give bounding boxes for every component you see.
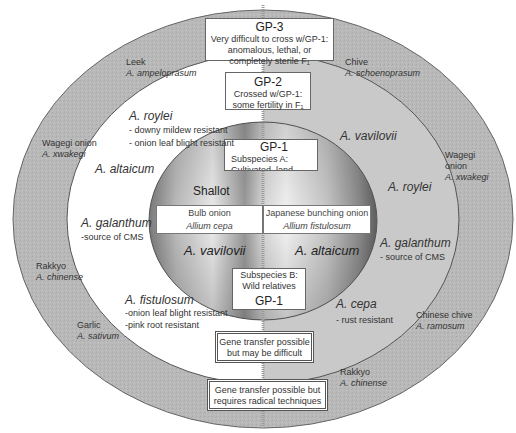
galanthum-right: A. galanthum - source of CMS	[380, 236, 451, 263]
chive-latin: A. schoenoprasum	[345, 68, 420, 79]
cepa-name: A. cepa	[336, 297, 393, 311]
wagegi-right-common-2: onion	[445, 161, 489, 172]
gp3-line-2: anomalous, lethal, or	[206, 45, 333, 56]
inner-vavilovii-label: A. vavilovii	[184, 243, 245, 258]
gp3-box: GP-3 Very difficult to cross w/GP-1: ano…	[205, 18, 334, 61]
chive: Chive A. schoenoprasum	[345, 57, 420, 79]
gp1-bottom-line-1: Subspecies B:	[233, 270, 305, 281]
rakkyo-bottom-latin: A. chinense	[340, 378, 387, 389]
garlic-common: Garlic	[77, 320, 119, 331]
fistulosum: A. fistulosum -onion leaf blight resista…	[125, 293, 228, 331]
gp3-line-3: completely sterile F₁	[206, 56, 333, 67]
rakkyo-bottom: Rakkyo A. chinense	[340, 367, 387, 389]
roylei-left-note-1: - downy mildew resistant	[129, 125, 234, 136]
wagegi-right: Wagegi onion A. xwakegi	[445, 150, 489, 183]
bunching-onion-cell: Japanese bunching onion Allium fistulosu…	[263, 205, 371, 234]
gp1-top-title: GP-1	[231, 140, 317, 154]
cepa: A. cepa - rust resistant	[336, 297, 393, 326]
galanthum-right-name: A. galanthum	[380, 236, 451, 250]
cepa-note: - rust resistant	[336, 315, 393, 326]
roylei-left-name: A. roylei	[129, 109, 234, 123]
wagegi-right-common-1: Wagegi	[445, 150, 489, 161]
vavilovii-right-label: A. vavilovii	[340, 129, 397, 143]
chinese-chive-common: Chinese chive	[416, 310, 473, 321]
wagegi-left: Wagegi onion A. xwakegi	[42, 138, 97, 160]
bulb-onion-cell: Bulb onion Allium cepa	[156, 205, 263, 234]
shallot-label: Shallot	[193, 184, 230, 198]
wagegi-left-common: Wagegi onion	[42, 138, 97, 149]
gp3-line-1: Very difficult to cross w/GP-1:	[206, 34, 333, 45]
gp2-box: GP-2 Crossed w/GP-1: some fertility in F…	[225, 72, 311, 110]
gp1-top-line-2: Cultivated, land races	[231, 165, 317, 171]
gp1-bottom-line-2: Wild relatives	[233, 281, 305, 292]
gp1-top-box: GP-1 Subspecies A: Cultivated, land race…	[224, 139, 318, 171]
roylei-left: A. roylei - downy mildew resistant - oni…	[129, 109, 234, 149]
gp1-top-line-1: Subspecies A:	[231, 154, 317, 165]
leek-common: Leek	[126, 57, 197, 68]
gp2-title: GP-2	[226, 75, 310, 89]
gp1-bottom-title: GP-1	[233, 294, 305, 308]
leek: Leek A. ampeloprasum	[126, 57, 197, 79]
legend-radical-line-1: Gene transfer possible but	[210, 385, 325, 396]
fistulosum-name: A. fistulosum	[125, 293, 228, 307]
legend-difficult-line-1: Gene transfer possible	[218, 337, 311, 348]
galanthum-left: A. galanthum -source of CMS	[81, 216, 152, 243]
rakkyo-bottom-common: Rakkyo	[340, 367, 387, 378]
garlic-latin: A. sativum	[77, 331, 119, 342]
bunching-onion-common: Japanese bunching onion	[264, 207, 370, 220]
galanthum-left-name: A. galanthum	[81, 216, 152, 230]
inner-altaicum-label: A. altaicum	[295, 243, 359, 258]
leek-latin: A. ampeloprasum	[126, 68, 197, 79]
gp1-bottom-box: Subspecies B: Wild relatives GP-1	[232, 268, 306, 310]
wagegi-left-latin: A. xwakegi	[42, 149, 97, 160]
galanthum-left-note: -source of CMS	[81, 232, 152, 243]
rakkyo-left: Rakkyo A. chinense	[36, 261, 83, 283]
roylei-right-label: A. roylei	[388, 180, 431, 194]
bulb-onion-latin: Allium cepa	[157, 220, 262, 233]
chive-common: Chive	[345, 57, 420, 68]
rakkyo-left-common: Rakkyo	[36, 261, 83, 272]
fistulosum-note-2: -pink root resistant	[125, 320, 228, 331]
gp2-line-2: some fertility in F₁	[226, 100, 310, 111]
legend-radical-box: Gene transfer possible but requires radi…	[207, 379, 328, 411]
wagegi-right-latin: A. xwakegi	[445, 172, 489, 183]
gp2-line-1: Crossed w/GP-1:	[226, 89, 310, 100]
garlic: Garlic A. sativum	[77, 320, 119, 342]
fistulosum-note-1: -onion leaf blight resistant	[125, 308, 228, 319]
legend-radical-line-2: requires radical techniques	[210, 396, 325, 407]
altaicum-left-label: A. altaicum	[95, 162, 154, 176]
legend-difficult-box: Gene transfer possible but may be diffic…	[215, 331, 314, 363]
galanthum-right-note: - source of CMS	[380, 252, 451, 263]
roylei-left-note-2: - onion leaf blight resistant	[129, 138, 234, 149]
rakkyo-left-latin: A. chinense	[36, 272, 83, 283]
bunching-onion-latin: Allium fistulosum	[264, 220, 370, 233]
legend-difficult-line-2: but may be difficult	[218, 348, 311, 359]
chinese-chive-latin: A. ramosum	[416, 321, 473, 332]
chinese-chive: Chinese chive A. ramosum	[416, 310, 473, 332]
gp3-title: GP-3	[206, 20, 333, 34]
bulb-onion-common: Bulb onion	[157, 207, 262, 220]
